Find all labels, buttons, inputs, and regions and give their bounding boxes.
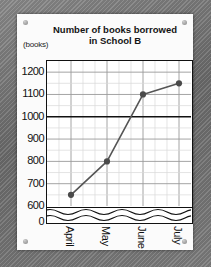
y-axis-tick-1200: 1200 xyxy=(22,65,44,77)
y-axis-tick-600: 600 xyxy=(27,199,44,211)
axis-break-wave-icon xyxy=(47,208,191,222)
y-axis-tick-900: 900 xyxy=(27,132,44,144)
chart-title-line-1: Number of books borrowed xyxy=(39,24,191,35)
x-axis-tick-july: July xyxy=(172,226,184,244)
axis-break-zone xyxy=(46,208,193,224)
plot-area-wrapper: 1200110010009008007006000 AprilMayJuneJu… xyxy=(46,60,193,224)
y-axis-tick-labels: 1200110010009008007006000 xyxy=(17,60,44,224)
y-axis-tick-1000: 1000 xyxy=(22,110,44,122)
y-axis-tick-700: 700 xyxy=(27,177,44,189)
grid-and-series xyxy=(47,61,191,206)
y-axis-tick-1100: 1100 xyxy=(22,87,44,99)
y-axis-tick-0: 0 xyxy=(38,215,44,227)
chart-title: Number of books borrowed in School B xyxy=(39,24,191,46)
y-axis-units-label: (books) xyxy=(23,40,48,49)
screw-dot-icon xyxy=(23,20,28,25)
chart-title-line-2: in School B xyxy=(39,35,191,46)
screw-dot-icon xyxy=(23,239,28,244)
x-axis-tick-may: May xyxy=(100,226,112,246)
chart-card: Number of books borrowed in School B (bo… xyxy=(17,14,193,250)
x-axis-tick-june: June xyxy=(136,226,148,249)
plot-area xyxy=(46,60,193,208)
x-axis-tick-april: April xyxy=(64,226,76,247)
y-axis-tick-800: 800 xyxy=(27,154,44,166)
x-axis-tick-labels: AprilMayJuneJuly xyxy=(46,226,193,267)
